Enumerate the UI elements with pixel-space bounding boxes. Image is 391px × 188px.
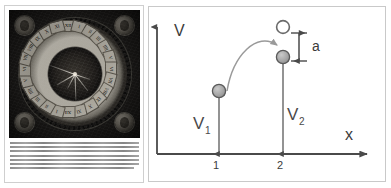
caption-line [10, 159, 139, 161]
v2-subscript: 2 [299, 116, 305, 127]
figure-page: XIIIIIIIIIIIIVVIVIIVIIIIXXXIXIIIIIIIIIII… [0, 0, 391, 188]
corner-medallion-bottom-left [15, 113, 34, 132]
hop-curved-arrow [227, 41, 277, 91]
caption-line [10, 150, 139, 152]
corner-medallion-top-left [15, 16, 34, 35]
dial-hub [73, 72, 77, 76]
filled-circle-site-2 [276, 50, 289, 63]
v2-label: V [287, 105, 299, 124]
caption-line [10, 167, 134, 169]
caption-line [10, 163, 139, 165]
caption-line [10, 146, 139, 148]
dial-hand [74, 74, 76, 100]
y-axis-label: V [174, 22, 185, 39]
astronomical-clock-engraving: XIIIIIIIIIIIIVVIVIIVIIIIXXXIXIIIIIIIIIII… [9, 10, 140, 138]
open-circle-marker [277, 21, 290, 34]
v1-subscript: 1 [205, 125, 211, 136]
v1-label: V [193, 114, 205, 133]
corner-medallion-bottom-right [115, 113, 134, 132]
caption-line [10, 155, 139, 157]
caption-line [10, 142, 139, 144]
x-tick-label-1: 1 [213, 159, 219, 171]
x-axis-label: x [345, 126, 353, 143]
filled-circle-site-1 [212, 84, 225, 97]
figure-caption [10, 142, 139, 180]
right-diagram-panel: V x V 1 V 2 a 1 2 [148, 6, 386, 182]
potential-diagram-svg: V x V 1 V 2 a 1 2 [149, 7, 385, 181]
corner-medallion-top-right [115, 16, 134, 35]
x-tick-label-2: 2 [277, 159, 283, 171]
gap-label-a: a [312, 38, 320, 54]
left-figure-panel: XIIIIIIIIIIIIVVIVIIVIIIIXXXIXIIIIIIIIIII… [4, 5, 144, 183]
